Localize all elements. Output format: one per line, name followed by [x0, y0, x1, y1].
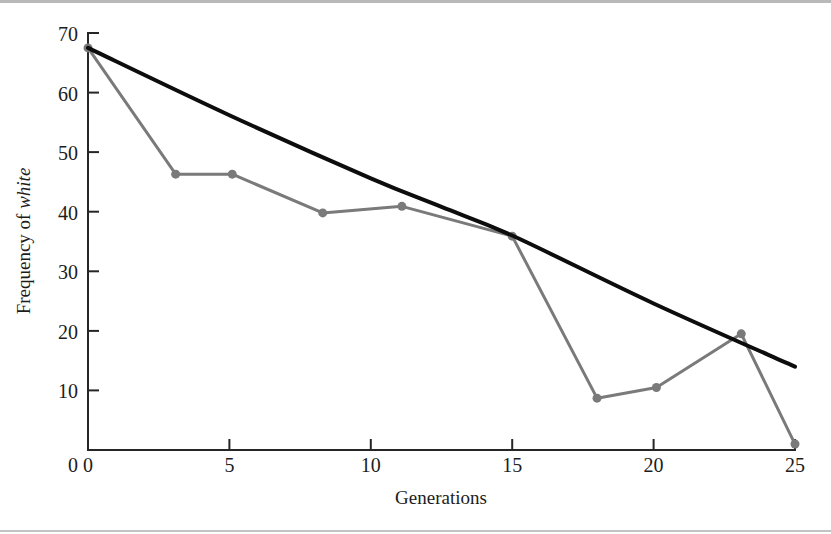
data-point-marker	[593, 394, 602, 403]
data-point-marker	[737, 329, 746, 338]
x-axis-ticks	[229, 439, 795, 450]
y-axis-tick-labels: 70 60 50 40 30 20 10 0	[58, 23, 78, 476]
y-tick-label: 20	[58, 321, 78, 343]
chart-canvas: 70 60 50 40 30 20 10 0 0 5 10 15 20 25	[0, 0, 831, 534]
y-tick-label: 10	[58, 380, 78, 402]
x-tick-label: 10	[361, 454, 381, 476]
data-point-marker	[228, 170, 237, 179]
y-tick-label-zero: 0	[68, 454, 78, 476]
y-tick-label: 60	[58, 83, 78, 105]
data-point-marker	[171, 170, 180, 179]
x-tick-label: 25	[785, 454, 805, 476]
data-series-group	[84, 43, 800, 448]
figure-container: 70 60 50 40 30 20 10 0 0 5 10 15 20 25	[0, 0, 831, 534]
bottom-divider-rule	[0, 530, 831, 532]
x-tick-label: 0	[83, 454, 93, 476]
x-tick-label: 5	[224, 454, 234, 476]
data-point-marker	[652, 383, 661, 392]
y-axis-ticks	[88, 33, 99, 390]
y-tick-label: 50	[58, 142, 78, 164]
y-axis-title: Frequency of white	[13, 168, 34, 315]
y-tick-label: 70	[58, 23, 78, 45]
x-tick-label: 20	[644, 454, 664, 476]
x-axis-title: Generations	[395, 487, 487, 508]
data-point-marker	[318, 208, 327, 217]
series-line-expected	[88, 48, 795, 367]
data-point-marker	[791, 440, 800, 449]
y-tick-label: 40	[58, 202, 78, 224]
x-tick-label: 15	[502, 454, 522, 476]
y-tick-label: 30	[58, 261, 78, 283]
x-axis-tick-labels: 0 5 10 15 20 25	[83, 454, 805, 476]
series-line-observed	[88, 48, 795, 444]
data-point-marker	[397, 202, 406, 211]
